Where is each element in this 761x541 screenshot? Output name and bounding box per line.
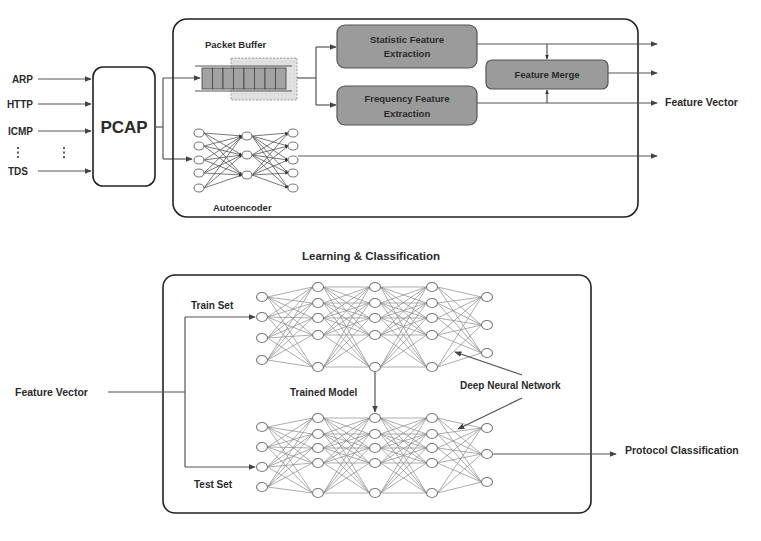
neuron-node — [194, 156, 204, 164]
neuron-node — [370, 283, 381, 292]
neuron-node — [242, 132, 252, 140]
statistic-box-line1: Statistic Feature — [370, 34, 444, 45]
input-label-http: HTTP — [7, 99, 33, 110]
neuron-node — [482, 293, 493, 302]
neuron-node — [288, 129, 298, 137]
neuron-node — [194, 169, 204, 177]
neuron-node — [313, 459, 324, 468]
learning-title: Learning & Classification — [302, 250, 440, 262]
protocol-classification-label: Protocol Classification — [625, 444, 739, 456]
neuron-node — [370, 430, 381, 439]
neuron-node — [370, 314, 381, 323]
neuron-node — [427, 430, 438, 439]
train-neural-network — [257, 283, 493, 372]
frequency-box-line1: Frequency Feature — [365, 93, 450, 104]
neuron-node — [313, 299, 324, 308]
trained-model-label: Trained Model — [290, 387, 357, 398]
neuron-node — [370, 363, 381, 372]
deep-neural-network-label: Deep Neural Network — [460, 380, 561, 391]
statistic-box-line2: Extraction — [384, 48, 431, 59]
neuron-node — [313, 331, 324, 340]
neuron-node — [427, 283, 438, 292]
input-label-arp: ARP — [12, 74, 33, 85]
buffer-cell — [276, 68, 287, 89]
neuron-node — [427, 444, 438, 453]
preprocessing-section: ARP HTTP ICMP TDS PCAP Packet Buffer — [7, 19, 738, 217]
buffer-cell — [223, 68, 234, 89]
neuron-node — [370, 459, 381, 468]
architecture-diagram: ARP HTTP ICMP TDS PCAP Packet Buffer — [0, 0, 761, 541]
protocol-inputs: ARP HTTP ICMP TDS — [7, 74, 91, 177]
learning-section: Learning & Classification Feature Vector… — [15, 250, 739, 513]
neuron-node — [370, 489, 381, 498]
feature-vector-output-label: Feature Vector — [665, 96, 738, 108]
pcap-label: PCAP — [100, 118, 147, 137]
feature-vector-input-label: Feature Vector — [15, 386, 88, 398]
input-label-tds: TDS — [8, 166, 28, 177]
buffer-cell — [213, 68, 224, 89]
neuron-node — [242, 171, 252, 179]
buffer-cells — [202, 68, 286, 89]
neuron-node — [288, 142, 298, 150]
neuron-node — [482, 349, 493, 358]
input-label-icmp: ICMP — [8, 126, 33, 137]
buffer-cell — [244, 68, 255, 89]
neuron-node — [194, 129, 204, 137]
test-set-label: Test Set — [194, 479, 233, 490]
neuron-node — [257, 293, 268, 302]
neuron-node — [427, 299, 438, 308]
neuron-node — [257, 356, 268, 365]
statistic-feature-extraction-box — [337, 25, 477, 68]
neuron-node — [482, 424, 493, 433]
neuron-node — [288, 184, 298, 192]
neuron-node — [194, 184, 204, 192]
buffer-cell — [265, 68, 276, 89]
neuron-node — [313, 283, 324, 292]
neuron-node — [242, 151, 252, 159]
neuron-node — [313, 314, 324, 323]
neuron-node — [370, 299, 381, 308]
neuron-node — [257, 334, 268, 343]
neuron-node — [482, 321, 493, 330]
neuron-node — [257, 463, 268, 472]
frequency-box-line2: Extraction — [384, 108, 431, 119]
neuron-node — [370, 331, 381, 340]
neuron-node — [370, 414, 381, 423]
packet-buffer-label: Packet Buffer — [205, 39, 267, 50]
autoencoder-label: Autoencoder — [213, 202, 272, 213]
buffer-cell — [234, 68, 245, 89]
neuron-node — [288, 156, 298, 164]
train-set-label: Train Set — [191, 300, 234, 311]
neuron-node — [370, 444, 381, 453]
neuron-node — [427, 314, 438, 323]
neuron-node — [313, 444, 324, 453]
frequency-feature-extraction-box — [337, 86, 477, 125]
neuron-node — [427, 489, 438, 498]
packet-buffer: Packet Buffer — [195, 39, 297, 100]
neuron-node — [482, 478, 493, 487]
buffer-cell — [202, 68, 213, 89]
feature-merge-label: Feature Merge — [515, 69, 580, 80]
neuron-node — [313, 363, 324, 372]
neuron-node — [313, 489, 324, 498]
neuron-node — [257, 423, 268, 432]
neuron-node — [288, 169, 298, 177]
neuron-node — [257, 483, 268, 492]
neuron-node — [427, 459, 438, 468]
neuron-node — [313, 414, 324, 423]
neuron-node — [427, 363, 438, 372]
neuron-node — [482, 450, 493, 459]
neuron-node — [194, 142, 204, 150]
neuron-node — [257, 443, 268, 452]
neuron-node — [427, 331, 438, 340]
neuron-node — [427, 414, 438, 423]
neuron-node — [313, 430, 324, 439]
autoencoder-network — [194, 129, 298, 192]
buffer-cell — [255, 68, 266, 89]
test-neural-network — [257, 414, 493, 498]
neuron-node — [257, 313, 268, 322]
